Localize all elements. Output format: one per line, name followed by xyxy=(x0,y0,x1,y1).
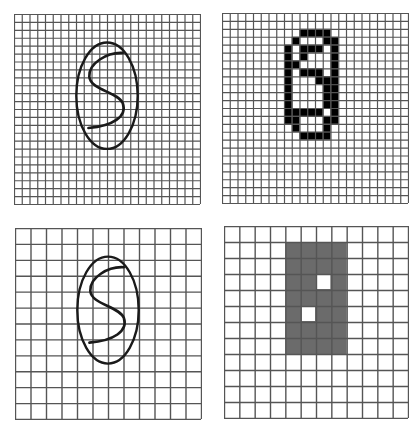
white-pixel xyxy=(302,307,315,321)
filled-pixel xyxy=(331,92,339,100)
filled-pixel xyxy=(331,68,339,76)
filled-pixel xyxy=(323,29,331,37)
panel-top-left xyxy=(14,14,201,205)
filled-pixel xyxy=(284,45,292,53)
filled-pixel xyxy=(284,84,292,92)
filled-pixel xyxy=(307,108,315,116)
filled-pixel xyxy=(300,132,308,140)
filled-pixel xyxy=(323,132,331,140)
filled-pixel xyxy=(331,53,339,61)
filled-pixel xyxy=(331,45,339,53)
filled-pixel xyxy=(300,45,308,53)
filled-pixel xyxy=(284,116,292,124)
filled-pixel xyxy=(315,68,323,76)
filled-pixel xyxy=(323,84,331,92)
handwritten-s-stroke xyxy=(88,53,123,128)
grid-lines xyxy=(222,13,409,204)
filled-pixel xyxy=(323,100,331,108)
grid-top-right xyxy=(222,13,409,204)
handwritten-s-stroke xyxy=(89,267,124,342)
filled-pixel xyxy=(284,76,292,84)
filled-pixel xyxy=(315,29,323,37)
filled-pixel xyxy=(315,132,323,140)
filled-pixel xyxy=(284,108,292,116)
filled-pixel xyxy=(292,124,300,132)
filled-pixel xyxy=(315,76,323,84)
filled-pixel xyxy=(300,68,308,76)
filled-pixel xyxy=(284,53,292,61)
grid-bottom-left xyxy=(15,228,202,420)
filled-pixel xyxy=(307,45,315,53)
filled-pixel xyxy=(284,68,292,76)
filled-pixel xyxy=(300,108,308,116)
filled-pixel xyxy=(331,84,339,92)
filled-pixel xyxy=(331,116,339,124)
filled-pixel xyxy=(331,37,339,45)
panel-bottom-left xyxy=(15,228,202,420)
filled-pixel xyxy=(331,100,339,108)
filled-pixel xyxy=(331,76,339,84)
panel-top-right xyxy=(222,13,409,204)
white-pixel xyxy=(317,275,330,289)
filled-pixel xyxy=(315,108,323,116)
filled-pixel xyxy=(292,61,300,69)
filled-pixel xyxy=(323,116,331,124)
filled-pixel xyxy=(323,37,331,45)
filled-pixel xyxy=(284,92,292,100)
filled-pixel xyxy=(300,29,308,37)
filled-pixel xyxy=(331,108,339,116)
filled-pixel xyxy=(307,29,315,37)
filled-pixel xyxy=(284,100,292,108)
panel-bottom-right xyxy=(224,226,409,419)
filled-pixel xyxy=(284,61,292,69)
filled-pixel xyxy=(292,108,300,116)
filled-pixel xyxy=(323,124,331,132)
filled-pixel xyxy=(323,76,331,84)
filled-pixel xyxy=(331,61,339,69)
grid-top-left xyxy=(14,14,201,205)
grid-lines xyxy=(224,226,409,419)
filled-pixel xyxy=(307,68,315,76)
filled-pixel xyxy=(323,92,331,100)
filled-pixel xyxy=(292,37,300,45)
filled-pixel xyxy=(300,53,308,61)
filled-pixel xyxy=(315,45,323,53)
filled-pixel xyxy=(307,132,315,140)
grid-bottom-right xyxy=(224,226,409,419)
filled-pixel xyxy=(292,116,300,124)
